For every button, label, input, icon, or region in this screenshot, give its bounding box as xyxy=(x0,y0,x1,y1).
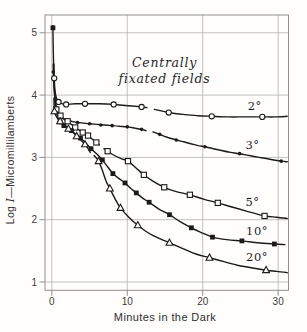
data-point-open-square-series-2 xyxy=(215,200,220,205)
y-tick-label: 1 xyxy=(31,277,37,288)
data-point-open-square-series-2 xyxy=(187,192,192,197)
x-axis-label: Minutes in the Dark xyxy=(114,311,216,323)
chart-canvas: 543210102030 2°3°5°10°20° Centrally fixa… xyxy=(0,0,307,332)
data-point-open-square-series-2 xyxy=(85,133,90,138)
data-point-small-filled-circle-series-1 xyxy=(279,159,283,163)
data-point-open-circle-series-0 xyxy=(56,99,61,104)
data-point-open-circle-series-0 xyxy=(82,101,87,106)
data-point-open-circle-series-0 xyxy=(64,102,69,107)
y-tick-label: 3 xyxy=(31,152,37,163)
series-label-20deg: 20° xyxy=(246,250,268,264)
x-tick-label: 30 xyxy=(273,296,285,307)
data-point-filled-square-series-3 xyxy=(111,171,116,176)
data-point-open-circle-series-0 xyxy=(139,104,144,109)
series-label-5deg: 5° xyxy=(245,195,259,209)
x-tick-label: 20 xyxy=(197,296,209,307)
dark-adaptation-figure: 543210102030 2°3°5°10°20° Centrally fixa… xyxy=(0,0,307,332)
data-point-filled-square-series-3 xyxy=(147,200,152,205)
data-point-filled-square-series-3 xyxy=(51,25,56,30)
data-point-filled-square-series-3 xyxy=(189,225,194,230)
data-point-small-filled-circle-series-1 xyxy=(88,122,92,126)
data-point-small-filled-circle-series-1 xyxy=(125,125,129,129)
data-point-open-triangle-series-4 xyxy=(106,185,113,191)
data-point-filled-square-series-3 xyxy=(123,181,128,186)
data-point-small-filled-circle-series-1 xyxy=(158,133,162,137)
data-point-open-square-series-2 xyxy=(80,130,85,135)
data-point-open-circle-series-0 xyxy=(209,114,214,119)
data-point-open-square-series-2 xyxy=(105,149,110,154)
series-label-3deg: 3° xyxy=(245,138,259,152)
y-tick-label: 5 xyxy=(31,27,37,38)
y-axis-label-prefix: Log xyxy=(4,202,16,224)
data-point-small-filled-circle-series-1 xyxy=(76,121,80,125)
data-point-open-circle-series-0 xyxy=(111,102,116,107)
data-point-small-filled-circle-series-1 xyxy=(110,124,114,128)
data-point-open-square-series-2 xyxy=(94,140,99,145)
data-point-filled-square-series-3 xyxy=(167,212,172,217)
curve-5deg xyxy=(104,149,287,219)
data-point-small-filled-circle-series-1 xyxy=(203,145,207,149)
data-point-filled-square-series-3 xyxy=(134,191,139,196)
data-point-filled-square-series-3 xyxy=(240,238,245,243)
data-point-small-filled-circle-series-1 xyxy=(99,123,103,127)
y-axis-label-suffix: —Micromillilamberts xyxy=(4,96,16,198)
data-point-open-square-series-2 xyxy=(125,159,130,164)
curve-2deg xyxy=(154,109,287,117)
annotation-line-2: fixated fields xyxy=(118,71,211,86)
data-point-small-filled-circle-series-1 xyxy=(140,128,144,132)
data-point-open-circle-series-0 xyxy=(52,76,57,81)
y-axis-label: Log I—Micromillilamberts xyxy=(4,96,16,225)
y-tick-label: 4 xyxy=(31,90,37,101)
data-point-filled-square-series-3 xyxy=(89,146,94,151)
series-label-2deg: 2° xyxy=(248,99,262,113)
series-label-10deg: 10° xyxy=(246,224,268,238)
data-point-open-square-series-2 xyxy=(162,185,167,190)
data-point-open-square-series-2 xyxy=(65,119,70,124)
y-tick-label: 2 xyxy=(31,214,37,225)
data-point-open-square-series-2 xyxy=(262,213,267,218)
data-point-filled-square-series-3 xyxy=(272,242,277,247)
data-point-small-filled-circle-series-1 xyxy=(174,138,178,142)
data-point-open-circle-series-0 xyxy=(260,114,265,119)
data-point-open-circle-series-0 xyxy=(166,110,171,115)
data-point-small-filled-circle-series-1 xyxy=(52,70,56,74)
data-point-small-filled-circle-series-1 xyxy=(238,152,242,156)
x-tick-label: 10 xyxy=(122,296,134,307)
data-point-filled-square-series-3 xyxy=(210,235,215,240)
x-tick-label: 0 xyxy=(49,296,55,307)
data-point-open-square-series-2 xyxy=(141,172,146,177)
annotation-line-1: Centrally xyxy=(132,55,197,70)
series-labels-layer: 2°3°5°10°20° xyxy=(245,99,268,264)
